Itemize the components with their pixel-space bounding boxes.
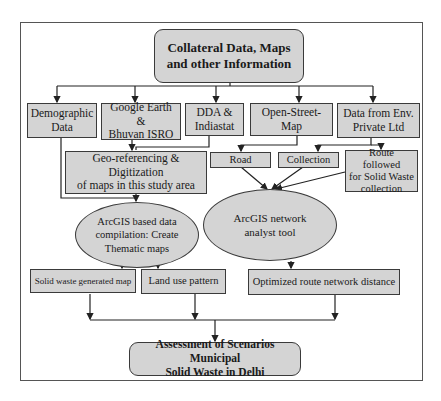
source-open-street-map: Open-Street- Map <box>250 103 333 136</box>
arcgis-data-compilation-ellipse: ArcGIS based data compilation: Create Th… <box>75 202 199 268</box>
source-dda-indiastat: DDA & Indiastat <box>185 103 244 136</box>
output-optimized-route: Optimized route network distance <box>248 269 400 295</box>
source-google-earth-bhuvan: Google Earth & Bhuvan ISRO <box>101 103 181 140</box>
source-demographic-data: Demographic Data <box>27 103 97 138</box>
final-assessment-box: Assessment of Scenarios Municipal Solid … <box>129 342 301 376</box>
output-solid-waste-map: Solid waste generated map <box>30 269 136 293</box>
collection-box: Collection <box>278 152 339 168</box>
georeferencing-box: Geo-referencing & Digitization of maps i… <box>65 151 207 194</box>
route-followed-box: Route followed for Solid Waste collectio… <box>345 150 418 192</box>
collateral-data-box: Collateral Data, Maps and other Informat… <box>154 29 304 83</box>
output-land-use-pattern: Land use pattern <box>141 269 226 294</box>
source-env-private-ltd: Data from Env. Private Ltd <box>337 103 420 138</box>
road-box: Road <box>210 152 271 168</box>
arcgis-network-analyst-ellipse: ArcGIS network analyst tool <box>203 189 337 261</box>
